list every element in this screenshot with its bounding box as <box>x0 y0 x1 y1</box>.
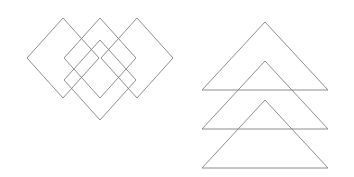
geometric-figure-canvas: Geometric line drawing of overlapping di… <box>0 0 354 177</box>
canvas-background <box>0 0 354 177</box>
